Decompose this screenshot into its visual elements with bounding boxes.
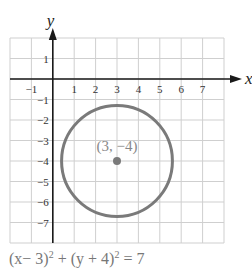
center-point-label: (3, −4) [97, 138, 138, 155]
x-axis-label: x [244, 69, 252, 88]
y-tick-label: −2 [37, 114, 49, 126]
x-tick-label: −1 [26, 83, 38, 95]
center-point [113, 157, 121, 165]
coordinate-plane: x y −11234567 1−1−2−3−4−5−6−7 (3, −4) [0, 0, 252, 277]
y-tick-label: −7 [37, 217, 49, 229]
equation-x-term: (x− 3) [9, 250, 49, 267]
y-tick-label: −4 [37, 155, 49, 167]
x-tick-label: 2 [93, 83, 99, 95]
y-tick-label: −6 [37, 196, 49, 208]
equation-y-term: + (y + 4) [54, 250, 115, 267]
y-tick-label: 1 [43, 53, 49, 65]
x-tick-label: 3 [114, 83, 120, 95]
x-tick-label: 6 [178, 83, 184, 95]
y-tick-label: −3 [37, 135, 49, 147]
y-tick-label: −5 [37, 176, 49, 188]
x-axis-arrow-icon [230, 75, 242, 83]
x-tick-label: 1 [71, 83, 77, 95]
x-tick-label: 4 [136, 83, 142, 95]
y-axis-label: y [45, 11, 55, 30]
y-tick-label: −1 [37, 94, 49, 106]
x-tick-label: 7 [200, 83, 206, 95]
circle-equation: (x− 3)2 + (y + 4)2 = 7 [9, 249, 144, 268]
equation-rhs: = 7 [119, 250, 144, 267]
x-tick-label: 5 [157, 83, 163, 95]
